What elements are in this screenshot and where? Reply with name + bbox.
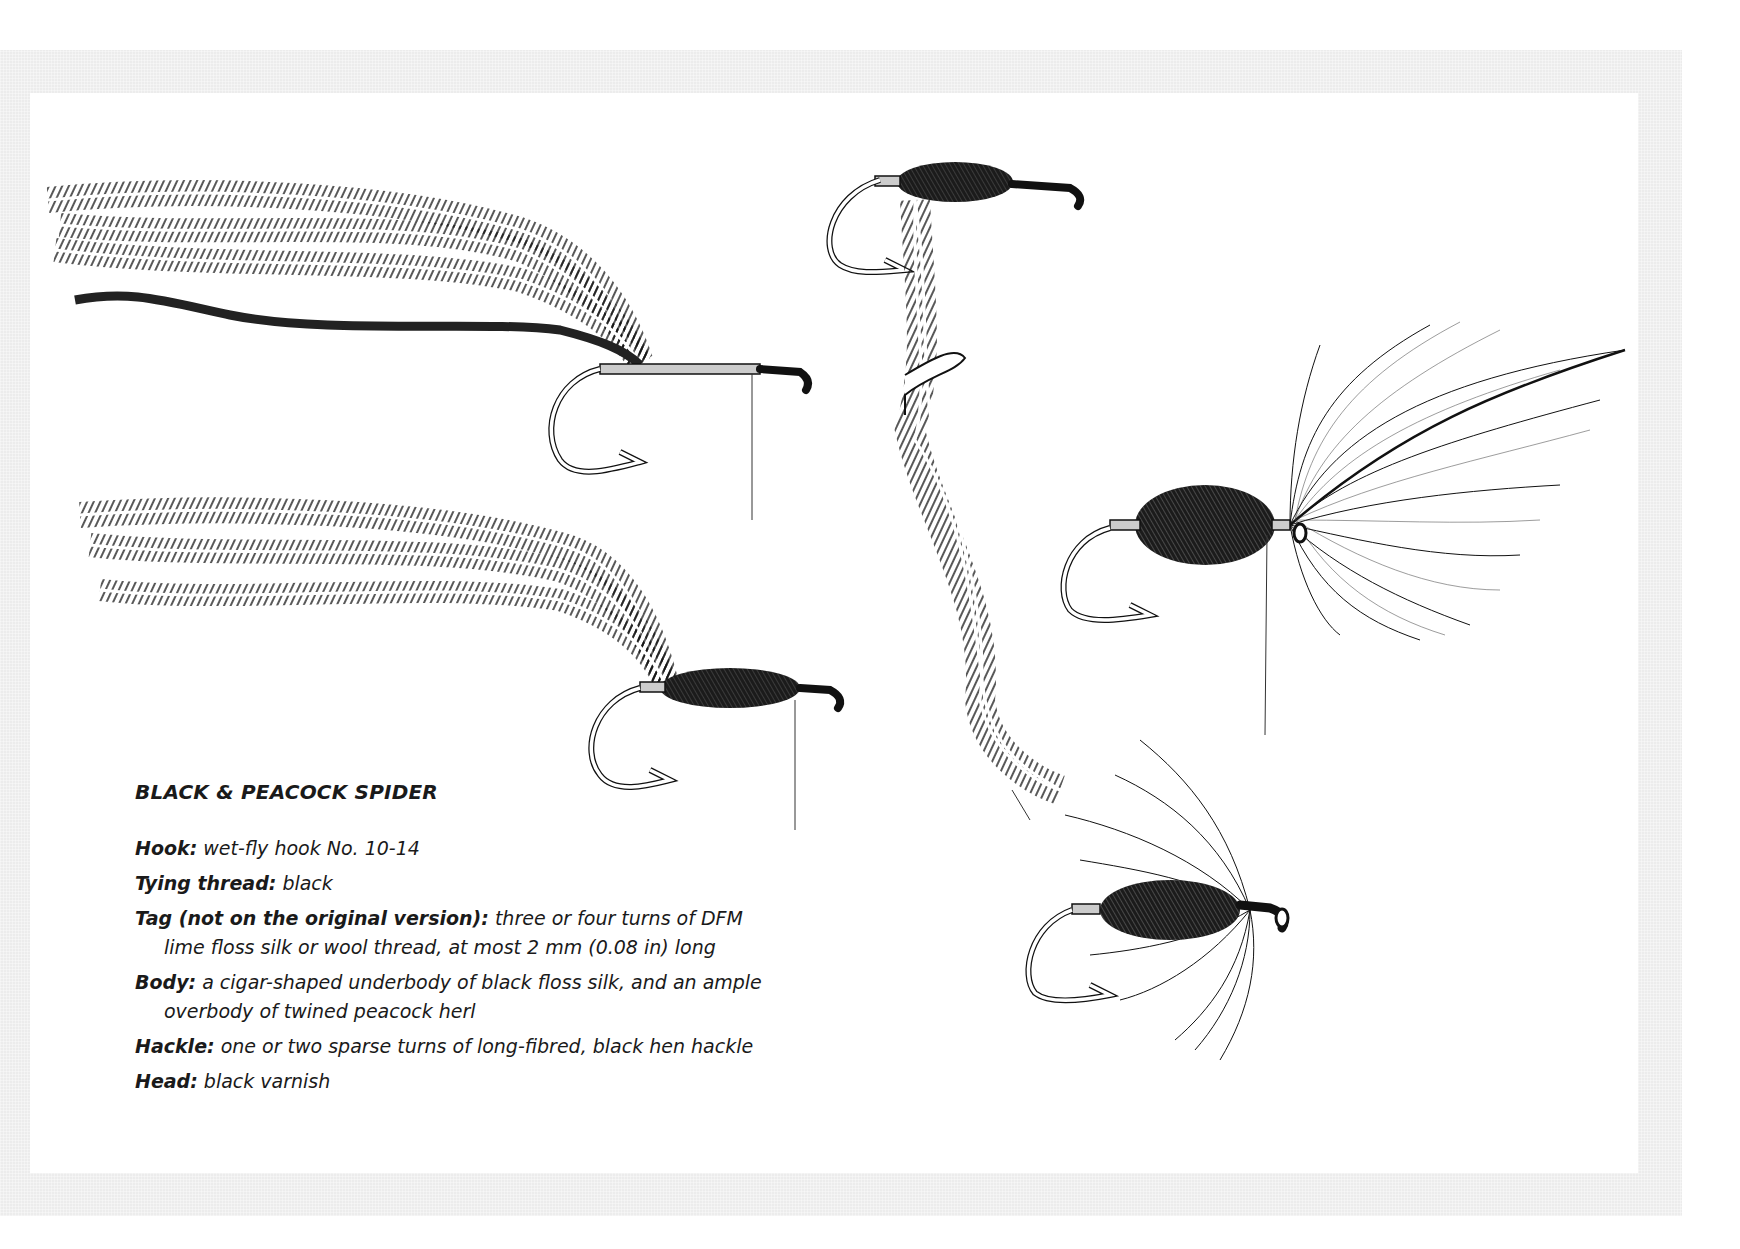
illustration-step-3 xyxy=(829,162,1080,820)
illustration-step-5 xyxy=(1028,740,1288,1060)
recipe-title: BLACK & PEACOCK SPIDER xyxy=(135,780,775,804)
spec-label: Hackle: xyxy=(135,1035,215,1057)
spec-label: Hook: xyxy=(135,837,197,859)
spec-body: Body: a cigar-shaped underbody of black … xyxy=(135,968,775,1026)
spec-value: a cigar-shaped underbody of black floss … xyxy=(164,971,762,1022)
spec-tag: Tag (not on the original version): three… xyxy=(135,904,775,962)
spec-hackle: Hackle: one or two sparse turns of long-… xyxy=(135,1032,775,1061)
spec-tying-thread: Tying thread: black xyxy=(135,869,775,898)
spec-value: black varnish xyxy=(204,1070,330,1092)
illustration-step-1 xyxy=(48,193,808,520)
spec-head: Head: black varnish xyxy=(135,1067,775,1096)
spec-label: Head: xyxy=(135,1070,198,1092)
spec-value: wet-fly hook No. 10-14 xyxy=(203,837,420,859)
illustration-step-4 xyxy=(1063,322,1625,735)
spec-value: black xyxy=(282,872,332,894)
spec-label: Tag (not on the original version): xyxy=(135,907,489,929)
spec-value: one or two sparse turns of long-fibred, … xyxy=(221,1035,753,1057)
spec-hook: Hook: wet-fly hook No. 10-14 xyxy=(135,834,775,863)
spec-label: Tying thread: xyxy=(135,872,276,894)
recipe-text-block: BLACK & PEACOCK SPIDER Hook: wet-fly hoo… xyxy=(135,780,775,1102)
spec-label: Body: xyxy=(135,971,196,993)
